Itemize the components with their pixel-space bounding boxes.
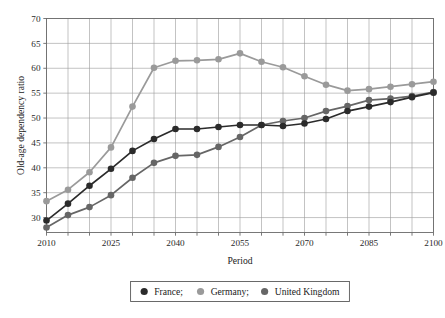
data-point-marker <box>129 174 136 181</box>
data-point-marker <box>108 192 115 199</box>
y-tick-label: 45 <box>31 138 41 148</box>
x-tick-label: 2085 <box>360 238 379 248</box>
y-tick-label: 30 <box>31 213 41 223</box>
data-point-marker <box>172 126 179 133</box>
x-tick-label: 2070 <box>295 238 314 248</box>
data-point-marker <box>215 144 222 151</box>
y-tick-label: 65 <box>31 39 41 49</box>
data-point-marker <box>108 144 115 151</box>
y-axis-title: Old-age dependency ratio <box>15 76 26 175</box>
data-point-marker <box>409 81 416 88</box>
data-point-marker <box>65 212 72 219</box>
data-point-marker <box>65 200 72 207</box>
data-point-marker <box>344 108 351 115</box>
x-tick-label: 2010 <box>37 238 56 248</box>
x-axis-title: Period <box>227 255 252 266</box>
data-point-marker <box>258 122 265 129</box>
data-point-marker <box>237 50 244 57</box>
data-point-marker <box>430 78 437 85</box>
data-point-marker <box>344 87 351 94</box>
legend-marker-icon <box>261 288 268 295</box>
data-point-marker <box>194 152 201 159</box>
data-point-marker <box>237 122 244 129</box>
y-tick-label: 70 <box>31 14 41 24</box>
x-tick-label: 2040 <box>166 238 185 248</box>
data-point-marker <box>129 103 136 110</box>
data-point-marker <box>323 116 330 123</box>
data-point-marker <box>366 86 373 93</box>
data-point-marker <box>86 182 93 189</box>
data-point-marker <box>323 108 330 115</box>
x-tick-label: 2025 <box>102 238 121 248</box>
data-point-marker <box>86 204 93 211</box>
legend-marker-icon <box>141 288 148 295</box>
y-tick-label: 50 <box>31 113 41 123</box>
data-point-marker <box>108 166 115 173</box>
data-point-marker <box>194 57 201 64</box>
data-point-marker <box>280 123 287 130</box>
y-tick-label: 40 <box>31 163 41 173</box>
data-point-marker <box>280 64 287 71</box>
y-tick-label: 60 <box>31 63 41 73</box>
data-point-marker <box>430 89 437 96</box>
data-point-marker <box>43 224 50 231</box>
data-point-marker <box>172 153 179 160</box>
data-point-marker <box>43 198 50 205</box>
data-point-marker <box>129 148 136 155</box>
data-point-marker <box>237 134 244 141</box>
data-point-marker <box>215 124 222 131</box>
line-chart: 303540455055606570 201020252040205520702… <box>0 0 445 318</box>
data-point-marker <box>172 58 179 65</box>
data-point-marker <box>151 160 158 167</box>
y-axis-tick-labels: 303540455055606570 <box>31 14 41 223</box>
chart-legend: France;Germany;United Kingdom <box>131 282 350 302</box>
x-tick-label: 2055 <box>231 238 250 248</box>
legend-label: United Kingdom <box>275 286 340 297</box>
data-point-marker <box>151 64 158 71</box>
data-point-marker <box>387 83 394 90</box>
data-point-marker <box>151 136 158 143</box>
data-point-marker <box>387 99 394 106</box>
data-point-marker <box>366 97 373 104</box>
y-tick-label: 55 <box>31 88 41 98</box>
data-point-marker <box>323 81 330 88</box>
data-point-marker <box>65 186 72 193</box>
data-point-marker <box>301 120 308 127</box>
legend-label: Germany; <box>211 286 249 297</box>
data-point-marker <box>43 217 50 224</box>
data-point-marker <box>258 59 265 66</box>
data-point-marker <box>301 73 308 80</box>
y-tick-label: 35 <box>31 188 41 198</box>
data-point-marker <box>366 103 373 110</box>
data-point-marker <box>409 94 416 101</box>
data-point-marker <box>86 169 93 176</box>
chart-background <box>0 0 445 318</box>
chart-figure: 303540455055606570 201020252040205520702… <box>0 0 445 318</box>
legend-label: France; <box>154 286 183 297</box>
data-point-marker <box>194 126 201 133</box>
data-point-marker <box>215 56 222 63</box>
legend-marker-icon <box>197 288 204 295</box>
x-tick-label: 2100 <box>424 238 443 248</box>
